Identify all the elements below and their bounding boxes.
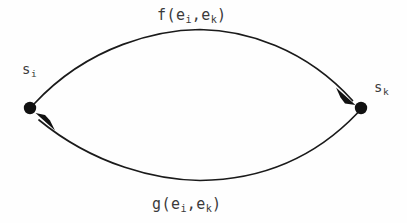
edge-f-paren-close: ): [217, 6, 227, 24]
edge-g-arg2-subscript: k: [206, 203, 212, 214]
edge-f-paren-open: (: [167, 6, 177, 24]
edge-g-arg2: e: [196, 195, 206, 213]
edge-g-paren-open: (: [162, 195, 172, 213]
diagram-canvas: f(ei,ek) g(ei,ek) si sk: [0, 0, 407, 223]
node-dot-s-k[interactable]: [355, 102, 367, 114]
node-label-s-k-subscript: k: [383, 86, 389, 97]
edge-f-arg1-subscript: i: [186, 14, 192, 25]
edge-g-arg1-subscript: i: [181, 203, 187, 214]
edge-g-comma: ,: [187, 195, 197, 213]
node-label-s-k-base: s: [374, 79, 383, 95]
edge-label-g: g(ei,ek): [152, 197, 221, 212]
edge-g-path: [39, 113, 358, 181]
graph-svg: [0, 0, 407, 223]
edge-g-arg1: e: [171, 195, 181, 213]
node-label-s-k: sk: [374, 80, 389, 94]
edge-g-function-name: g: [152, 195, 162, 213]
edge-f-arrowhead-icon: [336, 88, 356, 106]
edge-label-f: f(ei,ek): [157, 8, 226, 23]
node-label-s-i: si: [22, 62, 37, 76]
edge-f-arg1: e: [176, 6, 186, 24]
edge-f-path: [35, 30, 353, 104]
node-label-s-i-base: s: [22, 61, 31, 77]
node-dot-s-i[interactable]: [24, 102, 36, 114]
edge-f-arg2-subscript: k: [211, 14, 217, 25]
edge-f-comma: ,: [192, 6, 202, 24]
node-label-s-i-subscript: i: [31, 68, 37, 79]
edge-g-paren-close: ): [212, 195, 222, 213]
edge-g-arrowhead-icon: [36, 113, 56, 131]
edge-f-function-name: f: [157, 6, 167, 24]
edge-f-arg2: e: [201, 6, 211, 24]
